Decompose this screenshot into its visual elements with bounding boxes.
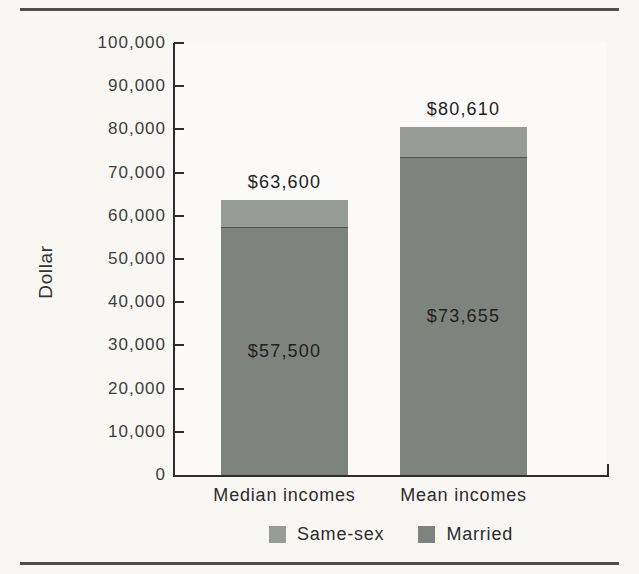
y-tick-label: 100,000 <box>50 33 166 53</box>
legend-item-same-sex: Same-sex <box>269 524 384 545</box>
y-tick-mark <box>174 172 184 174</box>
y-tick-mark <box>174 85 184 87</box>
y-tick-label: 30,000 <box>50 335 166 355</box>
chart-layer: 100,00090,00080,00070,00060,00050,00040,… <box>0 0 639 574</box>
bar-married-label: $73,655 <box>374 305 554 327</box>
bar-segment-same-sex <box>400 127 527 157</box>
y-tick-mark <box>174 431 184 433</box>
x-axis-line <box>173 475 609 477</box>
legend-item-married: Married <box>418 524 513 545</box>
bar-married-label: $57,500 <box>195 340 375 362</box>
bar-total-label: $63,600 <box>195 171 375 193</box>
y-tick-mark <box>174 215 184 217</box>
legend-label-married: Married <box>446 524 513 545</box>
y-tick-label: 60,000 <box>50 206 166 226</box>
scanned-chart-page: Dollar 100,00090,00080,00070,00060,00050… <box>0 0 639 574</box>
bar-total-label: $80,610 <box>374 98 554 120</box>
y-tick-label: 10,000 <box>50 422 166 442</box>
y-tick-label: 50,000 <box>50 249 166 269</box>
legend-label-same-sex: Same-sex <box>297 524 384 545</box>
x-axis-end-tick <box>607 464 609 475</box>
y-tick-mark <box>174 128 184 130</box>
bar-segment-same-sex <box>221 200 348 226</box>
y-tick-mark <box>174 42 184 44</box>
legend: Same-sex Married <box>174 523 608 545</box>
y-tick-label: 70,000 <box>50 163 166 183</box>
y-axis-line <box>173 43 175 477</box>
same-sex-swatch-icon <box>269 526 286 543</box>
y-tick-mark <box>174 301 184 303</box>
y-tick-mark <box>174 388 184 390</box>
y-tick-label: 20,000 <box>50 379 166 399</box>
bottom-rule <box>20 562 619 565</box>
x-category-label: Mean incomes <box>354 484 574 506</box>
y-tick-label: 80,000 <box>50 119 166 139</box>
married-swatch-icon <box>418 526 435 543</box>
y-tick-label: 40,000 <box>50 292 166 312</box>
y-tick-label: 0 <box>50 465 166 485</box>
y-tick-label: 90,000 <box>50 76 166 96</box>
y-tick-mark <box>174 258 184 260</box>
y-tick-mark <box>174 344 184 346</box>
